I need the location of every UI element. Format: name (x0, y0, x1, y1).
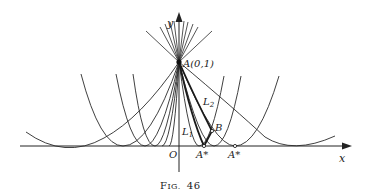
point-A-star-1 (202, 144, 205, 147)
y-axis-label: y (166, 17, 174, 30)
point-A (176, 59, 181, 64)
parabola-left-2 (116, 62, 179, 146)
point-B-label: B (214, 122, 222, 133)
y-axis-arrow-icon (176, 12, 183, 22)
curve-L2-label: L2 (202, 96, 215, 109)
figure-46: y x O A(0,1) B A* A* L1 L2 FIG.46 (0, 0, 369, 196)
point-A-star-2 (233, 144, 236, 147)
point-A-label: A(0,1) (182, 58, 214, 69)
parabola-left-3 (133, 62, 179, 146)
parabola-family (26, 62, 335, 148)
x-axis-arrow-icon (342, 143, 352, 150)
curve-L1-label: L1 (181, 126, 193, 139)
point-A-star-1-label: A* (195, 149, 208, 160)
parabola-left-1 (81, 62, 179, 146)
point-B (210, 129, 213, 132)
figure-caption: FIG.46 (160, 180, 201, 191)
x-axis-label: x (339, 152, 346, 165)
origin-label: O (169, 149, 177, 160)
point-A-star-2-label: A* (227, 149, 240, 160)
